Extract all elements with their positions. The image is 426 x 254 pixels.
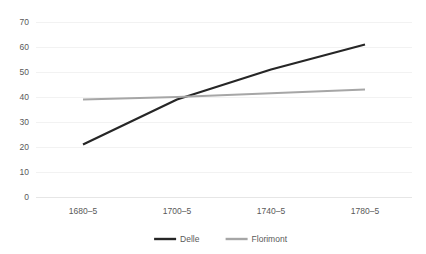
legend-label: Florimont (252, 234, 288, 244)
y-tick-label: 20 (20, 142, 30, 152)
line-chart: 010203040506070 1680–51700–51740–51780–5… (0, 0, 426, 254)
y-tick-label: 10 (20, 167, 30, 177)
y-tick-label: 0 (24, 192, 29, 202)
legend-label: Delle (180, 234, 200, 244)
x-tick-label: 1700–5 (163, 206, 192, 216)
chart-canvas: 010203040506070 1680–51700–51740–51780–5… (0, 0, 426, 254)
y-tick-label: 60 (20, 42, 30, 52)
y-tick-label: 70 (20, 17, 30, 27)
x-tick-label: 1740–5 (257, 206, 286, 216)
x-tick-label: 1780–5 (351, 206, 380, 216)
x-tick-label: 1680–5 (69, 206, 98, 216)
y-tick-label: 40 (20, 92, 30, 102)
y-tick-label: 50 (20, 67, 30, 77)
y-tick-label: 30 (20, 117, 30, 127)
